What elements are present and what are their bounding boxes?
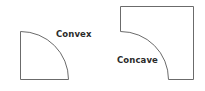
concave-shape: [121, 7, 194, 80]
corner-shapes-diagram: [0, 0, 205, 91]
concave-label: Concave: [117, 56, 158, 65]
convex-label: Convex: [56, 30, 92, 39]
